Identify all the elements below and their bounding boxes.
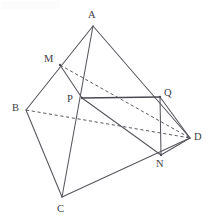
figure-canvas [0, 0, 214, 224]
vertex-dot-m [59, 64, 61, 66]
vertex-dot-n [160, 154, 162, 156]
vertex-label-c: C [57, 204, 64, 215]
vertex-label-q: Q [164, 88, 172, 99]
vertex-dot-p [81, 97, 83, 99]
segment-q-d [160, 97, 190, 138]
edge-b-d-hidden [26, 110, 190, 138]
vertex-dots-layer [59, 64, 162, 156]
edge-a-c [62, 26, 93, 197]
segment-p-q [82, 97, 160, 98]
vertex-label-n: N [156, 159, 164, 170]
edge-c-d [62, 138, 190, 197]
segment-p-n [82, 98, 161, 155]
vertex-label-a: A [88, 10, 96, 21]
vertex-dot-q [159, 96, 161, 98]
edge-a-d [93, 26, 190, 138]
edges-layer [26, 26, 190, 197]
geometry-figure: ABCDMNPQ [0, 0, 214, 224]
edge-b-c [26, 110, 62, 197]
vertex-label-b: B [12, 103, 19, 114]
vertex-label-d: D [194, 132, 202, 143]
vertex-label-m: M [44, 54, 53, 65]
segment-q-n [160, 97, 161, 155]
vertex-label-p: P [67, 94, 73, 105]
segment-n-d [161, 138, 190, 155]
